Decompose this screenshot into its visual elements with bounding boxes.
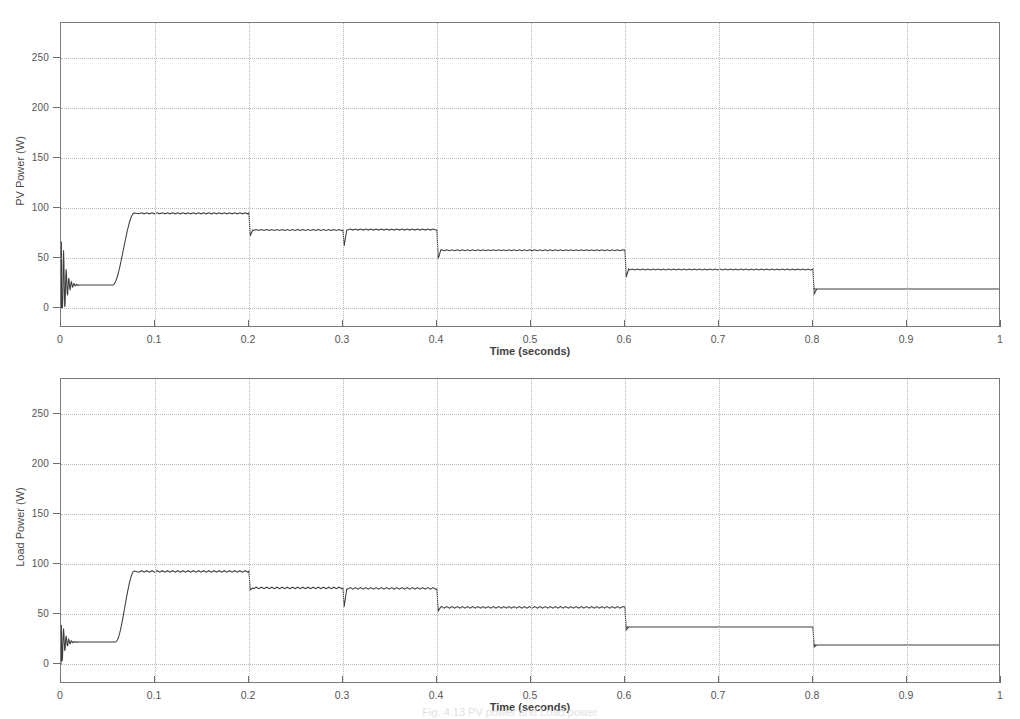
y-axis-tick-label: 150 [0, 152, 49, 163]
gridline-vertical [249, 379, 250, 682]
x-axis-tick [1000, 676, 1001, 683]
x-axis-tick [248, 676, 249, 683]
x-axis-tick [342, 320, 343, 327]
gridline-vertical [719, 23, 720, 326]
gridline-vertical [813, 379, 814, 682]
y-axis-tick-label: 250 [0, 408, 49, 419]
y-axis-tick [53, 307, 60, 308]
x-axis-tick-label: 0.8 [805, 333, 820, 345]
gridline-vertical [719, 379, 720, 682]
x-axis-tick [342, 676, 343, 683]
x-axis-tick [436, 676, 437, 683]
y-axis-tick [53, 57, 60, 58]
gridline-vertical [343, 379, 344, 682]
x-axis-tick [906, 320, 907, 327]
gridline-horizontal [61, 514, 999, 515]
y-axis-tick-label: 200 [0, 102, 49, 113]
gridline-horizontal [61, 58, 999, 59]
gridline-horizontal [61, 208, 999, 209]
x-axis-tick [60, 676, 61, 683]
x-axis-tick [1000, 320, 1001, 327]
y-axis-tick [53, 463, 60, 464]
y-axis-tick-label: 0 [0, 658, 49, 669]
x-axis-tick [812, 320, 813, 327]
x-axis-tick-label: 0.3 [335, 689, 350, 701]
x-axis-tick [624, 320, 625, 327]
x-axis-tick-label: 0.1 [147, 689, 162, 701]
x-axis-tick [436, 320, 437, 327]
x-axis-tick-label: 1 [997, 333, 1003, 345]
x-axis-tick [154, 676, 155, 683]
y-axis-tick [53, 413, 60, 414]
gridline-horizontal [61, 308, 999, 309]
gridline-vertical [437, 23, 438, 326]
y-axis-tick-label: 250 [0, 52, 49, 63]
x-axis-tick-label: 0.5 [523, 689, 538, 701]
gridline-horizontal [61, 414, 999, 415]
gridline-vertical [813, 23, 814, 326]
x-axis-tick [530, 676, 531, 683]
x-axis-tick [248, 320, 249, 327]
gridline-vertical [625, 23, 626, 326]
y-axis-tick [53, 613, 60, 614]
y-axis-tick-label: 50 [0, 252, 49, 263]
gridline-vertical [907, 23, 908, 326]
x-axis-tick-label: 0 [57, 689, 63, 701]
y-axis-tick-label: 50 [0, 608, 49, 619]
x-axis-tick [530, 320, 531, 327]
x-axis-tick-label: 0.6 [617, 333, 632, 345]
gridline-vertical [625, 379, 626, 682]
gridline-vertical [437, 379, 438, 682]
x-axis-tick-label: 0.1 [147, 333, 162, 345]
x-axis-tick-label: 0.2 [241, 689, 256, 701]
x-axis-tick [718, 320, 719, 327]
x-axis-tick-label: 0.4 [429, 689, 444, 701]
y-axis-tick [53, 257, 60, 258]
y-axis-tick-label: 150 [0, 508, 49, 519]
gridline-vertical [531, 23, 532, 326]
figure-two-power-plots: PV Power (W) 05010015020025000.10.20.30.… [0, 0, 1020, 719]
y-axis-tick [53, 513, 60, 514]
x-axis-tick [624, 676, 625, 683]
gridline-horizontal [61, 664, 999, 665]
x-axis-tick-label: 0.2 [241, 333, 256, 345]
y-axis-tick [53, 663, 60, 664]
plot-area-pv-power [60, 22, 1000, 327]
x-axis-tick-label: 0 [57, 333, 63, 345]
x-axis-tick-label: 0.7 [711, 689, 726, 701]
y-axis-tick [53, 107, 60, 108]
gridline-vertical [343, 23, 344, 326]
x-axis-tick [154, 320, 155, 327]
y-axis-tick-label: 200 [0, 458, 49, 469]
gridline-vertical [907, 379, 908, 682]
x-axis-tick-label: 0.8 [805, 689, 820, 701]
gridline-vertical [155, 379, 156, 682]
gridline-horizontal [61, 614, 999, 615]
x-axis-tick-label: 0.6 [617, 689, 632, 701]
panel-load-power: Load Power (W) 05010015020025000.10.20.3… [0, 356, 1020, 719]
x-axis-tick-label: 0.5 [523, 333, 538, 345]
x-axis-tick-label: 0.3 [335, 333, 350, 345]
x-axis-tick-label: 0.7 [711, 333, 726, 345]
gridline-horizontal [61, 108, 999, 109]
gridline-vertical [249, 23, 250, 326]
y-axis-tick [53, 207, 60, 208]
y-axis-tick-label: 100 [0, 202, 49, 213]
x-axis-tick-label: 0.4 [429, 333, 444, 345]
y-axis-tick-label: 0 [0, 302, 49, 313]
gridline-vertical [155, 23, 156, 326]
y-axis-tick [53, 157, 60, 158]
gridline-horizontal [61, 464, 999, 465]
x-axis-tick [718, 676, 719, 683]
gridline-horizontal [61, 158, 999, 159]
x-axis-tick [812, 676, 813, 683]
x-axis-tick-label: 0.9 [899, 333, 914, 345]
figure-caption: Fig. 4.13 PV power and Load power [0, 706, 1020, 718]
x-axis-tick-label: 1 [997, 689, 1003, 701]
gridline-vertical [531, 379, 532, 682]
gridline-horizontal [61, 564, 999, 565]
x-axis-tick [906, 676, 907, 683]
y-axis-tick-label: 100 [0, 558, 49, 569]
x-axis-tick [60, 320, 61, 327]
x-axis-tick-label: 0.9 [899, 689, 914, 701]
